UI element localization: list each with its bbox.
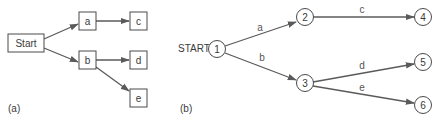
- node-4-label: 4: [420, 12, 426, 23]
- edge-start-b: [44, 48, 78, 62]
- node-b: b: [79, 51, 96, 69]
- node-start-label: Start: [15, 38, 36, 49]
- node-e-label: e: [136, 93, 142, 104]
- activity-diagram: Start a c b d e (a) a: [0, 0, 440, 123]
- node-c: c: [130, 12, 147, 30]
- node-b-label: b: [85, 55, 91, 66]
- node-c-label: c: [136, 16, 141, 27]
- node-3-label: 3: [302, 78, 308, 89]
- panel-b-caption: (b): [180, 103, 192, 114]
- edge-label-c: c: [360, 4, 365, 15]
- node-d: d: [130, 51, 147, 69]
- edge-label-d: d: [359, 60, 365, 71]
- panel-a-caption: (a): [8, 103, 20, 114]
- edge-start-a: [44, 24, 78, 39]
- node-1-label: 1: [214, 44, 220, 55]
- start-label: START: [178, 43, 210, 54]
- node-2: 2: [297, 9, 314, 26]
- node-2-label: 2: [302, 12, 308, 23]
- node-start: Start: [8, 34, 44, 52]
- node-1: 1: [209, 41, 226, 58]
- edge-label-a: a: [257, 22, 263, 33]
- node-3: 3: [297, 75, 314, 92]
- edge-label-b: b: [259, 52, 265, 63]
- node-6-label: 6: [420, 100, 426, 111]
- node-a: a: [79, 12, 96, 30]
- edge-b-e: [96, 67, 129, 91]
- edge-label-e: e: [359, 82, 365, 93]
- node-6: 6: [415, 97, 432, 114]
- node-5: 5: [415, 54, 432, 71]
- node-5-label: 5: [420, 57, 426, 68]
- node-e: e: [130, 89, 147, 107]
- node-a-label: a: [85, 16, 91, 27]
- panel-a: Start a c b d e (a): [8, 12, 147, 114]
- node-d-label: d: [136, 55, 142, 66]
- panel-b: a b c d e START 1 2 3 4 5 6: [178, 4, 432, 114]
- node-4: 4: [415, 9, 432, 26]
